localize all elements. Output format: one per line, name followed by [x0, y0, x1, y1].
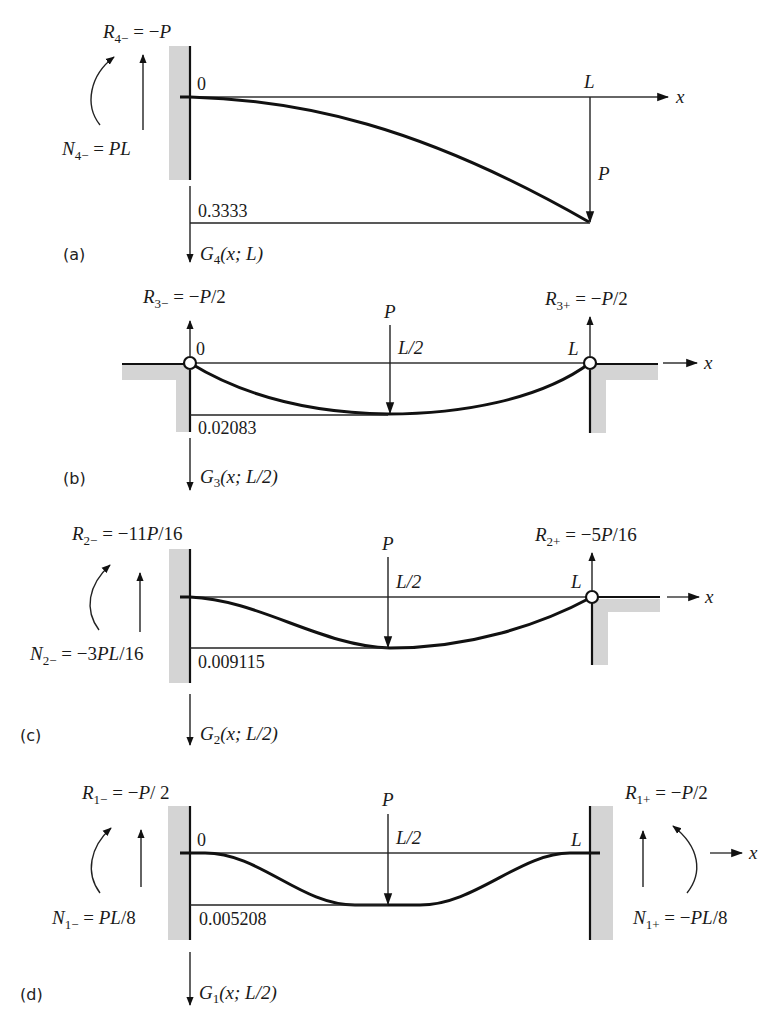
load-label: P	[381, 789, 394, 810]
origin-label: 0	[196, 339, 205, 359]
clamped-wall-left	[168, 806, 189, 940]
panel-label: (a)	[63, 245, 85, 264]
load-label: P	[597, 163, 610, 184]
reaction-right-label: R2+ = −5P/16	[534, 524, 637, 549]
load-position-label: L/2	[397, 337, 424, 358]
x-axis-label: x	[748, 842, 758, 863]
reaction-right-label: R1+ = −P/2	[624, 782, 708, 807]
function-label: G3(x; L/2)	[200, 466, 278, 490]
max-deflection-value: 0.009115	[198, 652, 265, 672]
pinned-support-left	[122, 365, 190, 432]
x-axis-label: x	[675, 86, 685, 107]
end-label: L	[567, 338, 579, 359]
function-label: G4(x; L)	[200, 243, 263, 267]
function-label: G1(x; L/2)	[199, 982, 277, 1006]
max-deflection-value: 0.02083	[198, 418, 257, 438]
load-label: P	[381, 533, 394, 554]
origin-label: 0	[197, 74, 206, 94]
panel-label: (d)	[20, 985, 43, 1004]
deflection-curve	[180, 853, 600, 905]
end-label: L	[570, 571, 582, 592]
moment-left-label: N2− = −3PL/16	[29, 643, 143, 668]
clamped-wall-left	[169, 46, 190, 180]
pinned-support-right	[590, 365, 658, 433]
clamped-wall-right	[590, 806, 613, 940]
reaction-left-label: R1− = −P/ 2	[81, 782, 170, 807]
moment-arrow-left	[90, 565, 110, 630]
load-label: P	[383, 301, 396, 322]
panel-b: x 0 L P L/2 0.02083 G3(x; L/2) (b) R3− =…	[63, 286, 713, 490]
reaction-left-label: R4− = −P	[102, 21, 171, 46]
moment-arrow-left	[91, 57, 114, 125]
x-axis-label: x	[704, 586, 714, 607]
moment-arrow-left	[91, 828, 111, 893]
moment-left-label: N4− = PL	[61, 138, 131, 163]
panel-a: x 0 L P 0.3333 G4(x; L) (a) R4− = −P N4−…	[61, 21, 685, 267]
clamped-wall-left	[169, 549, 190, 683]
max-deflection-value: 0.3333	[198, 201, 248, 221]
pin-right	[586, 591, 598, 603]
load-position-label: L/2	[395, 827, 422, 848]
max-deflection-value: 0.005208	[199, 909, 267, 929]
reaction-left-label: R2− = −11P/16	[71, 523, 183, 548]
beam-greens-function-figure: x 0 L P 0.3333 G4(x; L) (a) R4− = −P N4−…	[0, 0, 783, 1028]
pin-left	[184, 357, 196, 369]
function-label: G2(x; L/2)	[200, 723, 278, 747]
end-label: L	[583, 71, 595, 92]
moment-right-label: N1+ = −PL/8	[632, 907, 727, 932]
pinned-support-right	[592, 599, 660, 665]
panel-c: x L P L/2 0.009115 G2(x; L/2) (c) R2− = …	[20, 523, 714, 747]
moment-arrow-right	[673, 826, 697, 893]
x-axis-label: x	[703, 352, 713, 373]
origin-label: 0	[197, 830, 206, 850]
moment-left-label: N1− = PL/8	[51, 907, 136, 932]
panel-label: (b)	[63, 469, 86, 488]
panel-label: (c)	[20, 726, 41, 745]
reaction-left-label: R3− = −P/2	[142, 286, 226, 311]
reaction-right-label: R3+ = −P/2	[544, 288, 628, 313]
panel-d: x 0 L P L/2 0.005208 G1(x; L/2) (d) R1− …	[20, 782, 758, 1006]
pin-right	[584, 357, 596, 369]
end-label: L	[570, 829, 582, 850]
deflection-curve	[180, 597, 592, 648]
load-position-label: L/2	[395, 571, 422, 592]
